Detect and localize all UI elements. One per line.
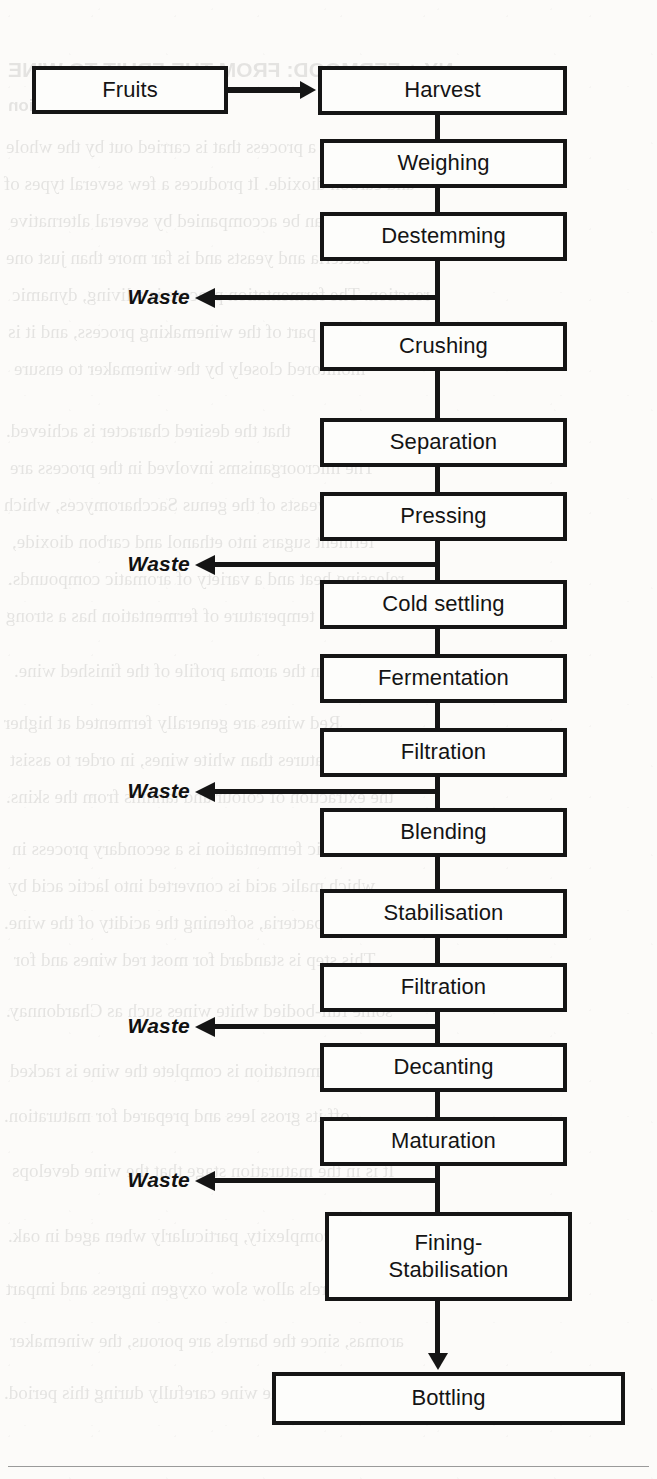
waste-label-5: Waste [40, 1168, 190, 1192]
flow-node-label: Stabilisation [384, 901, 504, 926]
waste-label-1: Waste [40, 285, 190, 309]
flow-node-label: Harvest [404, 78, 481, 103]
flow-node-crushing[interactable]: Crushing [320, 322, 567, 371]
flow-node-label: Destemming [381, 224, 505, 249]
waste-arrow-1-head-icon [195, 288, 215, 308]
flow-node-weighing[interactable]: Weighing [320, 139, 567, 188]
flow-node-filtration-1[interactable]: Filtration [320, 728, 567, 777]
waste-arrow-4-stem [206, 1024, 440, 1029]
flow-node-fruits[interactable]: Fruits [32, 66, 228, 114]
connector-fermentation-filtration [435, 701, 440, 730]
waste-arrow-3-head-icon [195, 782, 215, 802]
waste-arrow-1-stem [206, 295, 440, 300]
flow-node-harvest[interactable]: Harvest [318, 66, 567, 115]
waste-label-4: Waste [40, 1014, 190, 1038]
flow-node-blending[interactable]: Blending [320, 808, 567, 857]
arrow-fruits-to-harvest-head-icon [300, 81, 316, 99]
connector-pressing-cold-settling [435, 539, 440, 582]
process-flow-chart: Fruits Harvest Weighing Destemming Waste… [0, 0, 657, 1479]
connector-blending-stabilisation [435, 855, 440, 891]
waste-arrow-2-stem [206, 562, 440, 567]
flow-node-stabilisation[interactable]: Stabilisation [320, 889, 567, 938]
flow-node-label: Pressing [400, 504, 486, 529]
connector-cold-settling-fermentation [435, 627, 440, 656]
flow-node-label: Fruits [102, 78, 158, 103]
flow-node-label: Separation [390, 430, 497, 455]
scanned-page: NY + FERMOOD: FROM THE FRUIT TO WINE Fer… [0, 0, 657, 1479]
arrow-fining-to-bottling-head-icon [428, 1353, 448, 1370]
flow-node-label: Fermentation [378, 666, 509, 691]
waste-arrow-2-head-icon [195, 555, 215, 575]
connector-weighing-destemming [435, 186, 440, 214]
flow-node-fining-stabilisation[interactable]: Fining- Stabilisation [325, 1212, 572, 1301]
flow-node-maturation[interactable]: Maturation [320, 1117, 567, 1166]
flow-node-label: Bottling [411, 1386, 485, 1411]
flow-node-filtration-2[interactable]: Filtration [320, 963, 567, 1012]
waste-arrow-5-head-icon [195, 1171, 215, 1191]
connector-destemming-crushing [435, 259, 440, 324]
flow-node-label: Filtration [401, 740, 486, 765]
connector-crushing-separation [435, 369, 440, 420]
waste-arrow-4-head-icon [195, 1017, 215, 1037]
flow-node-fermentation[interactable]: Fermentation [320, 654, 567, 703]
connector-harvest-weighing [435, 113, 440, 141]
flow-node-label: Blending [400, 820, 486, 845]
flow-node-cold-settling[interactable]: Cold settling [320, 580, 567, 629]
waste-label-3: Waste [40, 779, 190, 803]
flow-node-label: Crushing [399, 334, 488, 359]
flow-node-label-line2: Stabilisation [389, 1257, 509, 1284]
connector-stabilisation-filtration [435, 936, 440, 965]
flow-node-label: Maturation [391, 1129, 496, 1154]
flow-node-label: Filtration [401, 975, 486, 1000]
waste-label-2: Waste [40, 552, 190, 576]
flow-node-pressing[interactable]: Pressing [320, 492, 567, 541]
connector-decanting-maturation [435, 1090, 440, 1119]
arrow-fruits-to-harvest-stem [228, 87, 302, 93]
arrow-fining-to-bottling-stem [435, 1299, 440, 1355]
flow-node-label-line1: Fining- [415, 1230, 483, 1257]
waste-arrow-5-stem [206, 1178, 440, 1183]
flow-node-decanting[interactable]: Decanting [320, 1043, 567, 1092]
flow-node-label: Cold settling [382, 592, 504, 617]
waste-arrow-3-stem [206, 789, 440, 794]
flow-node-separation[interactable]: Separation [320, 418, 567, 467]
connector-maturation-fining [435, 1164, 440, 1214]
flow-node-destemming[interactable]: Destemming [320, 212, 567, 261]
page-bottom-rule [8, 1466, 649, 1467]
flow-node-label: Weighing [397, 151, 489, 176]
flow-node-label: Decanting [394, 1055, 494, 1080]
connector-separation-pressing [435, 465, 440, 494]
flow-node-bottling[interactable]: Bottling [272, 1372, 625, 1425]
